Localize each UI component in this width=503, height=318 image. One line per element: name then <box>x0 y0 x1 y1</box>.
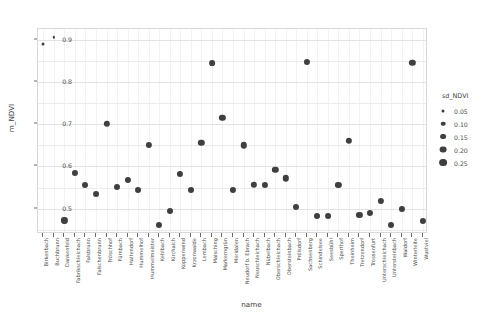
gridline-vertical <box>370 29 371 232</box>
data-point <box>240 142 246 148</box>
y-axis-tick-label: 0.5 <box>32 204 72 211</box>
x-axis-tick-label: Trossenfurt <box>371 238 376 266</box>
x-axis-tick-label: Nübelbach <box>266 238 271 265</box>
gridline-vertical <box>43 29 44 232</box>
y-axis-tick-mark <box>34 207 37 208</box>
y-axis-label: m_NDVI <box>7 104 16 132</box>
legend: sd_NDVI 0.050.100.150.200.25 <box>432 92 500 169</box>
data-point <box>82 182 88 188</box>
gridline-major <box>38 166 426 167</box>
data-point <box>314 213 320 219</box>
x-axis-tick-label: Markerngrün <box>223 238 228 271</box>
x-axis-tick-label: Hummelhof <box>139 238 144 268</box>
x-axis-tick-mark <box>42 233 43 237</box>
x-axis-tick-mark <box>221 233 222 237</box>
chart-root: 0.50.60.70.80.9 m_NDVI BirkenbachBuchbru… <box>0 0 503 318</box>
legend-label: 0.25 <box>454 159 468 166</box>
legend-dot <box>439 159 447 167</box>
gridline-vertical <box>85 29 86 232</box>
gridline-vertical <box>275 29 276 232</box>
gridline-vertical <box>54 29 55 232</box>
x-axis-tick-mark <box>401 233 402 237</box>
x-axis-tick-label: Hummelmeister <box>150 238 155 279</box>
x-axis-tick-mark <box>232 233 233 237</box>
x-axis-tick-label: Prölsdorf <box>297 238 302 260</box>
y-axis-tick-mark <box>34 165 37 166</box>
legend-item: 0.25 <box>432 156 500 169</box>
x-axis-tick-label: Schindelsee <box>318 238 323 269</box>
data-point <box>272 167 278 173</box>
data-point <box>177 170 183 176</box>
x-axis-tick-label: Maisching <box>213 238 218 264</box>
x-axis-tick-label: Fröschhof <box>108 238 113 262</box>
data-point <box>388 222 394 228</box>
legend-label: 0.10 <box>454 120 468 127</box>
legend-label: 0.20 <box>454 146 468 153</box>
x-axis-tick-label: Lembach <box>202 238 207 261</box>
data-point <box>156 222 162 228</box>
gridline-vertical <box>75 29 76 232</box>
x-axis-tick-mark <box>243 233 244 237</box>
gridline-vertical <box>338 29 339 232</box>
data-point <box>72 170 78 176</box>
plot-panel <box>37 28 427 233</box>
gridline-vertical <box>265 29 266 232</box>
data-point <box>146 142 152 148</box>
x-axis-tick-label: Krzonwalde <box>192 238 197 268</box>
x-axis-tick-mark <box>127 233 128 237</box>
gridline-minor <box>38 145 426 146</box>
x-axis-tick-mark <box>179 233 180 237</box>
x-axis-tick-label: Winterleite <box>413 238 418 266</box>
data-point <box>42 43 45 46</box>
data-point <box>377 198 383 204</box>
gridline-vertical <box>222 29 223 232</box>
data-point <box>399 206 405 212</box>
x-axis-tick-label: Theinheim <box>350 238 355 265</box>
x-axis-tick-mark <box>358 233 359 237</box>
gridline-vertical <box>402 29 403 232</box>
legend-item: 0.20 <box>432 143 500 156</box>
x-axis-tick-label: Sperthof <box>339 238 344 260</box>
x-axis-tick-label: Fürnbach <box>118 238 123 262</box>
legend-dot <box>441 121 446 126</box>
gridline-vertical <box>423 29 424 232</box>
gridline-major <box>38 82 426 83</box>
x-axis-tick-label: Koppenwind <box>181 238 186 269</box>
x-axis-tick-mark <box>158 233 159 237</box>
data-point <box>103 121 109 127</box>
y-axis-tick-mark <box>34 123 37 124</box>
data-point <box>409 60 415 66</box>
x-axis-tick-label: Kirchaich <box>171 238 176 261</box>
x-axis-tick-mark <box>369 233 370 237</box>
y-axis-tick-label: 0.7 <box>32 120 72 127</box>
gridline-vertical <box>159 29 160 232</box>
x-axis-tick-mark <box>190 233 191 237</box>
gridline-vertical <box>201 29 202 232</box>
legend-dot <box>442 109 445 112</box>
x-axis-tick-mark <box>116 233 117 237</box>
x-axis-tick-label: Obersteinbach <box>287 238 292 275</box>
x-axis-tick-mark <box>348 233 349 237</box>
gridline-vertical <box>96 29 97 232</box>
x-axis-tick-mark <box>106 233 107 237</box>
gridline-vertical <box>359 29 360 232</box>
gridline-vertical <box>180 29 181 232</box>
data-point <box>167 208 173 214</box>
gridline-vertical <box>233 29 234 232</box>
x-axis-tick-mark <box>84 233 85 237</box>
x-axis-tick-mark <box>274 233 275 237</box>
x-axis-tick-label: Tretzendorf <box>360 238 365 267</box>
gridline-vertical <box>170 29 171 232</box>
x-axis-tick-label: Meridalen <box>234 238 239 263</box>
x-axis-tick-labels: BirkenbachBuchbrunnDankenfeldFabrikschle… <box>37 238 427 296</box>
gridline-major <box>38 124 426 125</box>
data-point <box>304 59 310 65</box>
y-axis-tick-mark <box>34 38 37 39</box>
data-point <box>135 187 141 193</box>
x-axis-tick-mark <box>380 233 381 237</box>
gridline-vertical <box>117 29 118 232</box>
x-axis-tick-mark <box>137 233 138 237</box>
legend-dot <box>440 134 446 140</box>
gridline-minor <box>38 61 426 62</box>
x-axis-tick-mark <box>253 233 254 237</box>
